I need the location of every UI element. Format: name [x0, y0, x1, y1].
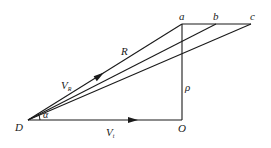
- diagram-lines: [28, 24, 251, 120]
- label-point-a: a: [179, 10, 185, 22]
- label-alpha: α: [43, 109, 49, 120]
- label-R: R: [120, 45, 128, 57]
- label-point-b: b: [213, 10, 219, 22]
- label-point-D: D: [14, 121, 23, 133]
- segment-D-a: [28, 24, 182, 120]
- segment-D-b: [28, 24, 216, 120]
- diagram-canvas: a b c D O R ρ α VR Vt: [0, 0, 271, 148]
- label-v-t: Vt: [106, 126, 115, 139]
- label-v-r: VR: [61, 79, 72, 92]
- label-rho: ρ: [184, 81, 190, 93]
- segment-D-c: [28, 24, 251, 120]
- arrowhead-vt-icon: [128, 117, 138, 123]
- label-point-O: O: [178, 122, 186, 134]
- arrowhead-r-icon: [94, 73, 104, 82]
- label-point-c: c: [250, 10, 255, 22]
